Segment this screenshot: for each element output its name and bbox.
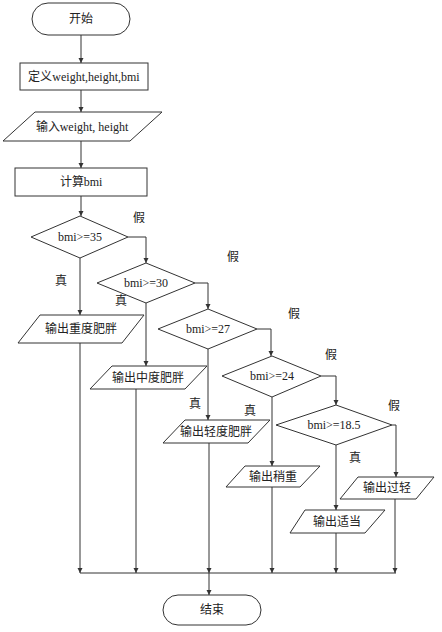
arrowhead bbox=[134, 568, 139, 573]
decision-label: bmi>=18.5 bbox=[307, 418, 360, 432]
false-label: 假 bbox=[227, 250, 239, 264]
true-label: 真 bbox=[115, 294, 127, 308]
compute-process: 计算bmi bbox=[15, 168, 147, 196]
arrowhead bbox=[79, 211, 84, 216]
output-label: 输出重度肥胖 bbox=[45, 321, 117, 336]
output-severe-obesity: 输出重度肥胖 bbox=[18, 315, 144, 343]
arrowhead bbox=[78, 310, 83, 315]
output-moderate-obesity: 输出中度肥胖 bbox=[90, 366, 207, 389]
define-label: 定义weight,height,bmi bbox=[28, 69, 140, 84]
output-label: 输出过轻 bbox=[363, 480, 411, 495]
arrowhead bbox=[207, 590, 212, 595]
flowchart: 开始 定义weight,height,bmi 输入weight, height … bbox=[0, 0, 442, 632]
decision-bmi-35: bmi>=35 bbox=[31, 216, 128, 258]
false-label: 假 bbox=[133, 211, 145, 225]
true-label: 真 bbox=[349, 451, 361, 465]
compute-label: 计算bmi bbox=[60, 174, 103, 189]
output-mild-obesity: 输出轻度肥胖 bbox=[163, 420, 270, 443]
input-label: 输入weight, height bbox=[36, 119, 129, 134]
true-label: 真 bbox=[55, 274, 67, 288]
arrowhead bbox=[393, 568, 398, 573]
start-terminal: 开始 bbox=[32, 3, 130, 35]
false-label: 假 bbox=[325, 348, 337, 362]
arrowhead bbox=[144, 258, 149, 263]
false-label: 假 bbox=[288, 307, 300, 321]
arrowhead bbox=[334, 505, 339, 510]
output-label: 输出轻度肥胖 bbox=[180, 424, 252, 439]
start-label: 开始 bbox=[69, 12, 93, 26]
arrowhead bbox=[334, 400, 339, 405]
arrowhead bbox=[79, 58, 84, 63]
connector-cond1-false bbox=[128, 237, 146, 263]
output-overweight: 输出稍重 bbox=[226, 466, 320, 487]
decision-label: bmi>=30 bbox=[124, 276, 168, 290]
connector-cond4-false bbox=[321, 376, 336, 405]
output-underweight: 输出过轻 bbox=[340, 477, 434, 499]
decision-bmi-24: bmi>=24 bbox=[222, 356, 321, 397]
connector-cond3-false bbox=[257, 329, 271, 356]
true-label: 真 bbox=[189, 397, 201, 411]
arrowhead bbox=[206, 415, 211, 420]
end-label: 结束 bbox=[200, 603, 224, 617]
input-io: 输入weight, height bbox=[3, 112, 162, 141]
arrowhead bbox=[78, 568, 83, 573]
decision-label: bmi>=35 bbox=[58, 230, 102, 244]
arrowhead bbox=[394, 472, 399, 477]
arrowhead bbox=[270, 568, 275, 573]
decision-bmi-18-5: bmi>=18.5 bbox=[276, 405, 392, 445]
output-normal: 输出适当 bbox=[290, 510, 385, 533]
connector-cond5-false bbox=[392, 425, 396, 477]
arrowhead bbox=[79, 163, 84, 168]
arrowhead bbox=[270, 461, 275, 466]
decision-label: bmi>=24 bbox=[250, 369, 294, 383]
end-terminal: 结束 bbox=[163, 595, 261, 625]
arrowhead bbox=[207, 568, 212, 573]
false-label: 假 bbox=[388, 399, 400, 413]
output-label: 输出适当 bbox=[313, 514, 361, 529]
arrowhead bbox=[206, 304, 211, 309]
decision-bmi-30: bmi>=30 bbox=[97, 263, 195, 303]
arrowhead bbox=[334, 568, 339, 573]
arrowhead bbox=[269, 351, 274, 356]
output-label: 输出中度肥胖 bbox=[112, 370, 184, 385]
arrowhead bbox=[144, 361, 149, 366]
true-label: 真 bbox=[244, 404, 256, 418]
decision-label: bmi>=27 bbox=[186, 322, 230, 336]
decision-bmi-27: bmi>=27 bbox=[158, 309, 257, 349]
define-process: 定义weight,height,bmi bbox=[20, 63, 148, 90]
arrowhead bbox=[79, 107, 84, 112]
output-label: 输出稍重 bbox=[249, 469, 297, 484]
